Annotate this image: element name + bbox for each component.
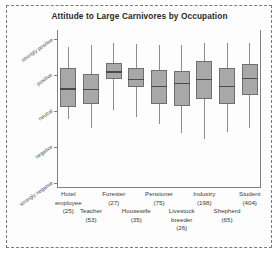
x-label-housewife: Housewife(35)	[110, 207, 162, 224]
median-line	[174, 83, 190, 84]
x-label-line-1: (65)	[201, 216, 253, 225]
x-label-line-1: breeder	[156, 216, 208, 225]
boxplot-pensioner[interactable]	[151, 30, 167, 188]
x-label-line-0: Hotel	[42, 190, 94, 199]
x-label-line-0: Housewife	[110, 207, 162, 216]
median-line	[83, 89, 99, 90]
boxplot-hotel-employee[interactable]	[60, 30, 76, 188]
x-label-line-1: (53)	[65, 216, 117, 225]
y-tick-4	[54, 183, 57, 184]
y-tick-0	[54, 39, 57, 40]
x-label-line-2: (26)	[156, 224, 208, 233]
y-tick-3	[54, 147, 57, 148]
right-axis-line	[260, 30, 261, 188]
x-label-line-0: Industry	[178, 190, 230, 199]
boxplot-student[interactable]	[242, 30, 258, 188]
x-label-line-0: Pensioner	[133, 190, 185, 199]
median-line	[151, 86, 167, 87]
box-rect	[174, 71, 190, 107]
x-label-line-0: Shepherd	[201, 207, 253, 216]
median-line	[60, 88, 76, 89]
boxplot-teacher[interactable]	[83, 30, 99, 188]
x-label-line-0: Livestock	[156, 207, 208, 216]
x-label-pensioner: Pensioner(75)	[133, 190, 185, 207]
boxplot-livestock-breeder[interactable]	[174, 30, 190, 188]
x-label-teacher: Teacher(53)	[65, 207, 117, 224]
boxplot-shepherd[interactable]	[219, 30, 235, 188]
x-label-line-0: Teacher	[65, 207, 117, 216]
x-label-industry: Industry(198)	[178, 190, 230, 207]
y-tick-1	[54, 75, 57, 76]
x-label-line-0: Forester	[88, 190, 140, 199]
x-label-livestock: Livestockbreeder(26)	[156, 207, 208, 233]
median-line	[242, 78, 258, 79]
y-tick-2	[54, 111, 57, 112]
boxplot-housewife[interactable]	[128, 30, 144, 188]
boxplot-industry[interactable]	[196, 30, 212, 188]
chart-page: Attitude to Large Carnivores by Occupati…	[0, 0, 279, 264]
plot-area: strongly positivepositiveneutralnegative…	[57, 30, 261, 188]
box-rect	[242, 64, 258, 95]
box-rect	[196, 61, 212, 99]
x-label-shepherd: Shepherd(65)	[201, 207, 253, 224]
x-label-line-0: Student	[224, 190, 276, 199]
x-label-line-1: (27)	[88, 199, 140, 208]
x-label-line-1: employee	[42, 199, 94, 208]
x-label-line-1: (75)	[133, 199, 185, 208]
median-line	[128, 79, 144, 80]
boxplot-forester[interactable]	[106, 30, 122, 188]
median-line	[219, 86, 235, 87]
x-label-line-1: (198)	[178, 199, 230, 208]
page-title: Attitude to Large Carnivores by Occupati…	[0, 11, 279, 21]
x-label-line-1: (404)	[224, 199, 276, 208]
y-axis-line	[57, 30, 58, 188]
median-line	[106, 71, 122, 72]
x-label-student: Student(404)	[224, 190, 276, 207]
x-label-line-1: (35)	[110, 216, 162, 225]
x-label-forester: Forester(27)	[88, 190, 140, 207]
median-line	[196, 79, 212, 80]
